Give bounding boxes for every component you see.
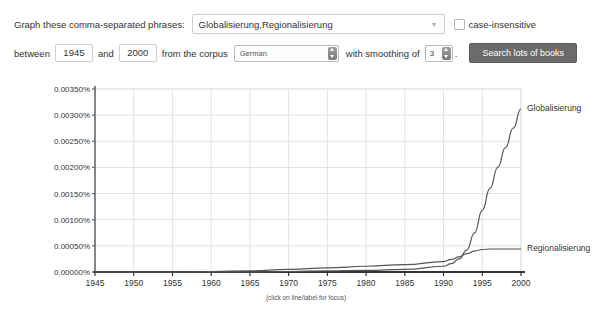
phrases-input-value: Globalisierung,Regionalisierung [193, 19, 333, 30]
phrases-input[interactable]: Globalisierung,Regionalisierung ▾ [192, 14, 445, 34]
query-row-options: between 1945 and 2000 from the corpus Ge… [14, 43, 577, 63]
y-axis-tick-label: 0.00250% [3, 137, 90, 146]
corpus-label: from the corpus [162, 48, 228, 59]
y-axis-tick-label: 0.00050% [3, 241, 90, 250]
corpus-select-value: German [235, 49, 267, 58]
start-year-input[interactable]: 1945 [55, 44, 93, 62]
case-insensitive-label: case-insensitive [469, 19, 537, 30]
y-axis-tick-label: 0.00100% [3, 215, 90, 224]
y-axis-tick-label: 0.00150% [3, 189, 90, 198]
chart-caption: (click on line/label for focus) [0, 294, 612, 301]
x-axis-tick-label: 1975 [318, 278, 337, 288]
series-label-regionalisierung[interactable]: Regionalisierung [527, 243, 590, 253]
x-axis-tick-label: 1955 [163, 278, 182, 288]
phrases-label: Graph these comma-separated phrases: [14, 19, 185, 30]
x-axis-tick-label: 1960 [202, 278, 221, 288]
end-year-input[interactable]: 2000 [119, 44, 157, 62]
case-insensitive-control[interactable]: case-insensitive [454, 19, 537, 30]
query-row-phrases: Graph these comma-separated phrases: Glo… [14, 14, 536, 34]
y-axis-tick-label: 0.00000% [3, 268, 90, 277]
corpus-select[interactable]: German [234, 45, 339, 62]
smoothing-spinner-icon[interactable] [442, 47, 451, 60]
chevron-down-icon[interactable]: ▾ [431, 21, 438, 28]
search-button[interactable]: Search lots of books [469, 43, 577, 63]
y-axis-tick-label: 0.00350% [3, 85, 90, 94]
x-axis-tick-label: 1965 [240, 278, 259, 288]
x-axis-tick-label: 1970 [279, 278, 298, 288]
ngram-chart[interactable]: 0.00000%0.00050%0.00100%0.00150%0.00200%… [0, 72, 612, 311]
trailing-period: . [455, 48, 458, 59]
between-label: between [14, 48, 50, 59]
x-axis-tick-label: 1945 [86, 278, 105, 288]
chart-plot-area[interactable] [0, 72, 612, 287]
series-label-globalisierung[interactable]: Globalisierung [527, 103, 581, 113]
smoothing-select[interactable]: 3 [425, 45, 453, 62]
and-label: and [98, 48, 114, 59]
x-axis-tick-label: 1980 [357, 278, 376, 288]
smoothing-label: with smoothing of [346, 48, 420, 59]
x-axis-tick-label: 2000 [512, 278, 531, 288]
x-axis-tick-label: 1985 [395, 278, 414, 288]
case-insensitive-checkbox[interactable] [454, 19, 465, 30]
y-axis-tick-label: 0.00200% [3, 163, 90, 172]
x-axis-tick-label: 1950 [124, 278, 143, 288]
smoothing-select-value: 3 [426, 49, 434, 58]
corpus-spinner-icon[interactable] [328, 47, 337, 60]
y-axis-tick-label: 0.00300% [3, 111, 90, 120]
x-axis-tick-label: 1995 [473, 278, 492, 288]
x-axis-tick-label: 1990 [434, 278, 453, 288]
